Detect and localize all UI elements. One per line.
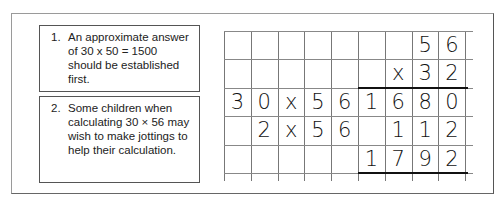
grid-cell [224, 116, 251, 144]
grid-cell: 6 [331, 116, 358, 144]
grid-cell: 9 [412, 145, 439, 173]
grid-cell: 1 [358, 145, 385, 173]
grid-cell: x [278, 88, 305, 116]
long-multiplication-grid: 56x3230x5616802x561121792 [224, 31, 473, 181]
grid-cell: x [385, 59, 412, 87]
grid-cell [331, 31, 358, 59]
grid-cell: 2 [251, 116, 278, 144]
note-jottings: 2. Some children when calculating 30 × 5… [39, 96, 200, 183]
grid-cell: 5 [412, 31, 439, 59]
grid-cell: 2 [438, 116, 465, 144]
note-number: 1. [51, 30, 61, 44]
grid-cell: 2 [438, 145, 465, 173]
grid-cell: 5 [304, 88, 331, 116]
grid-cell [331, 145, 358, 173]
grid-cell: 7 [385, 145, 412, 173]
grid-cell: 6 [331, 88, 358, 116]
grid-cell: 6 [438, 31, 465, 59]
grid-cell [358, 31, 385, 59]
grid-cell [278, 31, 305, 59]
grid-cell [358, 116, 385, 144]
grid-cell [385, 31, 412, 59]
grid-cell [304, 145, 331, 173]
grid-cell [358, 59, 385, 87]
grid-cell [304, 31, 331, 59]
grid-cell: 6 [385, 88, 412, 116]
grid-cell: 5 [304, 116, 331, 144]
grid-cell: 0 [251, 88, 278, 116]
grid-cell [278, 145, 305, 173]
grid-cell [224, 31, 251, 59]
grid-cell [251, 59, 278, 87]
note-number: 2. [51, 101, 61, 115]
grid-cell: 1 [385, 116, 412, 144]
grid-cell [251, 145, 278, 173]
grid-cell [224, 145, 251, 173]
note-text: Some children when calculating 30 × 56 m… [68, 101, 193, 157]
grid-cell: 1 [358, 88, 385, 116]
note-approximate-answer: 1. An approximate answer of 30 x 50 = 15… [39, 25, 200, 92]
grid-cell [251, 31, 278, 59]
grid-cell [331, 59, 358, 87]
note-text: An approximate answer of 30 x 50 = 1500 … [68, 30, 193, 86]
grid-cell: x [278, 116, 305, 144]
grid-cell: 0 [438, 88, 465, 116]
grid-cell: 2 [438, 59, 465, 87]
grid-cell [278, 59, 305, 87]
grid-cell: 8 [412, 88, 439, 116]
grid-cell: 1 [412, 116, 439, 144]
grid-cell: 3 [224, 88, 251, 116]
grid-cell [224, 59, 251, 87]
grid-cell: 3 [412, 59, 439, 87]
grid-cell [304, 59, 331, 87]
